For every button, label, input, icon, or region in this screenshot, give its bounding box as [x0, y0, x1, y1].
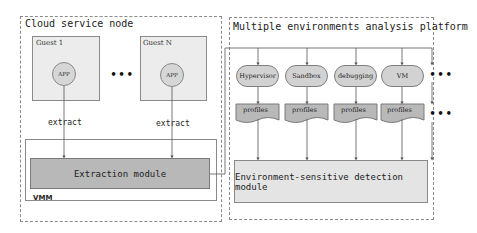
guest-n-app-node: APP: [160, 63, 184, 87]
guest-n-extract-label: extract: [156, 119, 190, 128]
extraction-module-label: Extraction module: [74, 169, 166, 179]
env-hypervisor-label: Hypervisor: [239, 72, 276, 80]
analysis-platform-title: Multiple environments analysis platform: [233, 21, 468, 32]
guest-1-app-node: APP: [52, 62, 76, 86]
environment-sensitive-detection-module: Environment-sensitive detection module: [234, 160, 428, 203]
env-hypervisor: Hypervisor: [236, 65, 279, 87]
guest-1-app-label: APP: [58, 71, 69, 77]
extraction-module: Extraction module: [30, 158, 210, 189]
env-debugging: debugging: [334, 65, 377, 87]
profile-debugging-label: profiles: [341, 106, 366, 114]
guest-1-extract-label: extract: [48, 118, 82, 127]
guest-1-label: Guest 1: [36, 39, 63, 47]
env-debugging-label: debugging: [338, 72, 373, 80]
guests-ellipsis: •••: [110, 69, 134, 81]
env-ellipsis: •••: [429, 69, 453, 81]
profile-vm-label: profiles: [387, 106, 412, 114]
env-vm-label: VM: [397, 72, 408, 80]
env-sandbox-label: Sandbox: [292, 72, 320, 80]
profile-hypervisor-label: profiles: [243, 106, 268, 114]
vmm-label: VMM: [33, 194, 52, 202]
detection-module-label: Environment-sensitive detection module: [235, 172, 427, 192]
guest-n-label: Guest N: [143, 39, 172, 47]
env-vm: VM: [381, 65, 424, 87]
profile-ellipsis: •••: [429, 108, 453, 120]
cloud-service-node-title: Cloud service node: [25, 18, 133, 29]
profile-sandbox-label: profiles: [292, 106, 317, 114]
env-sandbox: Sandbox: [285, 65, 328, 87]
guest-n-app-label: APP: [166, 72, 177, 78]
